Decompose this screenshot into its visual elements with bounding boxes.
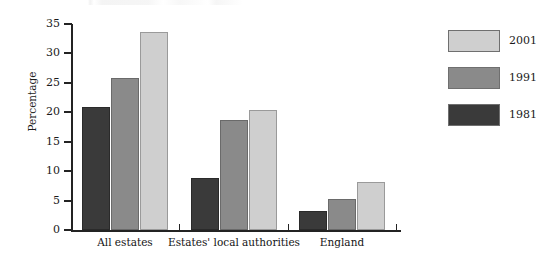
bar-1981-3 [299,211,327,230]
bar-1981-2 [191,178,219,230]
bar-chart-figure: Percentage 05101520253035 All estatesEst… [0,0,537,257]
legend: 200119911981 [448,30,534,141]
cropped-caption-remnant [88,0,268,5]
legend-label-1991: 1991 [509,72,537,84]
y-axis-tick-label-text: 5 [34,195,60,206]
legend-item-2001: 2001 [448,30,534,52]
y-axis-tick-label: 10 [30,165,60,176]
y-axis-tick-label-text: 30 [34,47,60,58]
legend-swatch-2001 [448,30,500,52]
y-axis-tick-label-text: 25 [34,77,60,88]
y-axis-tick-label: 35 [30,18,60,29]
legend-swatch-1981 [448,104,500,126]
x-axis-category-label: England [252,236,432,248]
legend-item-1981: 1981 [448,104,534,126]
y-axis-tick-label: 25 [30,77,60,88]
legend-label-2001: 2001 [509,35,537,47]
legend-swatch-1991 [448,67,500,89]
bar-2001-3 [357,182,385,230]
y-axis-tick-label-text: 0 [34,224,60,235]
bar-1991-3 [328,199,356,230]
y-axis-tick-label: 5 [30,195,60,206]
bar-1991-2 [220,120,248,230]
bar-2001-1 [140,32,168,230]
y-axis-tick-label-text: 15 [34,136,60,147]
y-axis-tick-label: 30 [30,47,60,58]
bar-2001-2 [249,110,277,230]
y-axis-tick-label-text: 20 [34,106,60,117]
legend-label-1981: 1981 [509,109,537,121]
y-axis-tick-label: 20 [30,106,60,117]
y-axis-tick-label: 15 [30,136,60,147]
y-axis-tick-label: 0 [30,224,60,235]
legend-item-1991: 1991 [448,67,534,89]
y-axis-tick-label-text: 10 [34,165,60,176]
y-axis-title: Percentage [27,62,38,142]
plot-area [71,24,401,230]
x-axis-line [71,230,401,232]
y-axis-tick-label-text: 35 [34,18,60,29]
bar-1991-1 [111,78,139,230]
bar-1981-1 [82,107,110,230]
